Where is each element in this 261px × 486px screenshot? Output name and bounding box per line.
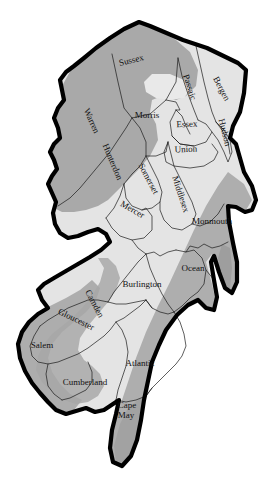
- county-name-text: Atlantic: [126, 358, 155, 368]
- county-label-monmouth: Monmouth: [192, 216, 233, 226]
- county-label-atlantic: Atlantic: [126, 358, 155, 368]
- county-name-text: Cumberland: [63, 377, 108, 387]
- county-label-union: Union: [174, 144, 197, 155]
- county-label-capemay: CapeMay: [118, 400, 137, 420]
- county-name-text: Ocean: [182, 263, 205, 273]
- county-name-text-line2: May: [118, 410, 135, 420]
- county-label-cumberland: Cumberland: [63, 377, 108, 387]
- county-label-ocean: Ocean: [182, 263, 205, 273]
- county-label-salem: Salem: [31, 340, 54, 350]
- new-jersey-counties-map: SussexPassaicBergenWarrenMorrisEssexHuds…: [0, 0, 261, 486]
- county-label-essex: Essex: [176, 119, 198, 130]
- county-name-text: Salem: [31, 340, 54, 350]
- county-name-text: Morris: [135, 110, 160, 120]
- county-label-morris: Morris: [135, 110, 160, 120]
- map-container: SussexPassaicBergenWarrenMorrisEssexHuds…: [0, 0, 261, 486]
- county-name-text: Cape: [118, 400, 137, 410]
- county-name-text: Union: [174, 144, 197, 155]
- county-name-text: Essex: [176, 119, 198, 130]
- county-label-burlington: Burlington: [122, 279, 162, 289]
- county-name-text: Monmouth: [192, 216, 233, 226]
- county-name-text: Burlington: [122, 279, 162, 289]
